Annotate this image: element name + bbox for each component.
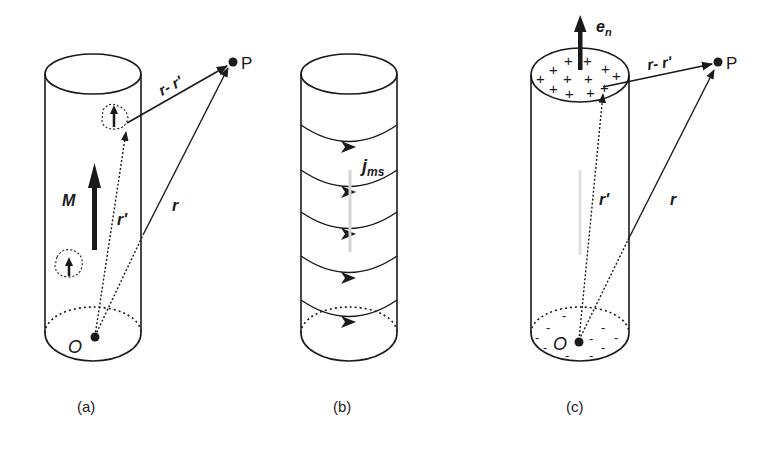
origin-label-a: O <box>68 337 82 357</box>
svg-text:-: - <box>601 320 605 335</box>
svg-text:-: - <box>614 330 618 345</box>
field-point-label-a: P <box>241 54 252 73</box>
panel-c: + + + + + + + + + + + + - - - - - - - - … <box>531 15 737 415</box>
dipole-element-bottom <box>55 250 82 277</box>
svg-text:-: - <box>562 308 566 323</box>
magnetization-label: M <box>62 192 76 209</box>
position-vector-label-c: r <box>670 191 677 208</box>
svg-text:+: + <box>583 52 592 69</box>
origin-label-c: O <box>553 334 567 354</box>
source-vector-c <box>579 94 603 340</box>
source-vector-a <box>95 132 126 336</box>
svg-text:-: - <box>535 330 539 345</box>
svg-text:+: + <box>601 60 610 77</box>
position-vector-label-a: r <box>172 197 179 214</box>
normal-vector-label: en <box>596 18 612 38</box>
position-vector-a-hidden <box>95 235 143 336</box>
difference-vector-label-a: r- r' <box>155 72 185 99</box>
svg-text:+: + <box>564 52 573 69</box>
svg-text:+: + <box>612 67 621 84</box>
caption-c: (c) <box>566 398 584 415</box>
svg-text:-: - <box>543 340 547 355</box>
field-point-c <box>714 58 723 67</box>
field-point-a <box>229 58 238 67</box>
caption-b: (b) <box>333 398 351 415</box>
svg-text:+: + <box>549 61 558 78</box>
magnetization-arrow <box>88 163 101 250</box>
field-point-label-c: P <box>726 54 737 73</box>
surface-current-label: jms <box>360 156 385 179</box>
dipole-element-top <box>102 104 128 129</box>
figure-canvas: M O r' r r- r' P (a) <box>0 0 770 464</box>
difference-vector-label-c: r- r' <box>646 53 673 73</box>
svg-text:-: - <box>589 348 593 363</box>
svg-text:-: - <box>601 340 605 355</box>
panel-b: jms (b) <box>301 54 397 415</box>
svg-text:-: - <box>589 331 593 346</box>
svg-text:+: + <box>549 80 558 97</box>
position-vector-a <box>143 68 228 235</box>
svg-text:+: + <box>565 85 574 102</box>
caption-a: (a) <box>77 398 95 415</box>
svg-text:-: - <box>546 320 550 335</box>
position-vector-c <box>628 70 714 240</box>
svg-text:+: + <box>586 84 595 101</box>
svg-text:+: + <box>536 70 545 87</box>
source-vector-label-c: r' <box>599 191 610 208</box>
panel-a: M O r' r r- r' P (a) <box>45 54 252 415</box>
origin-point-a <box>91 333 100 342</box>
source-vector-label-a: r' <box>117 211 128 228</box>
